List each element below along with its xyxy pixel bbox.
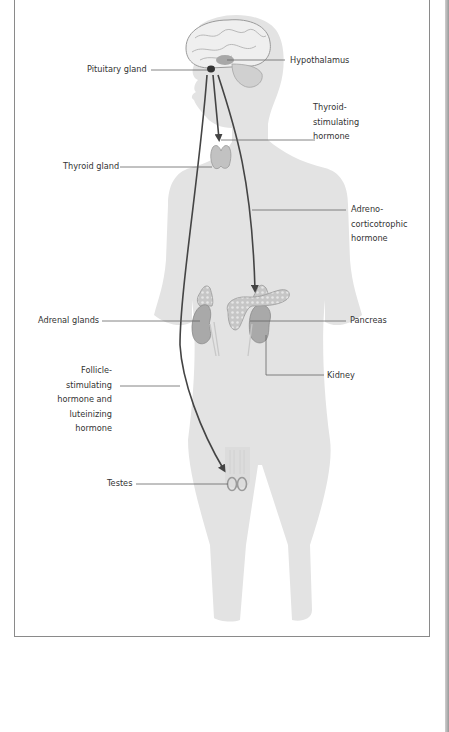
pituitary-shape [207,66,215,73]
label-kidney: Kidney [327,368,355,383]
label-adrenal-glands: Adrenal glands [38,313,99,328]
label-thyroid-gland: Thyroid gland [63,159,119,174]
label-pancreas: Pancreas [350,313,387,328]
label-pituitary-gland: Pituitary gland [87,62,147,77]
label-testes: Testes [107,476,132,491]
label-hypothalamus: Hypothalamus [290,53,349,68]
right-kidney-shape [249,305,270,343]
label-adrenocorticotrophic-hormone: Adreno- corticotrophic hormone [351,202,407,246]
label-fsh-lh: Follicle- stimulating hormone and lutein… [40,363,112,436]
label-thyroid-stimulating-hormone: Thyroid- stimulating hormone [313,100,359,144]
thyroid-shape [211,146,231,169]
